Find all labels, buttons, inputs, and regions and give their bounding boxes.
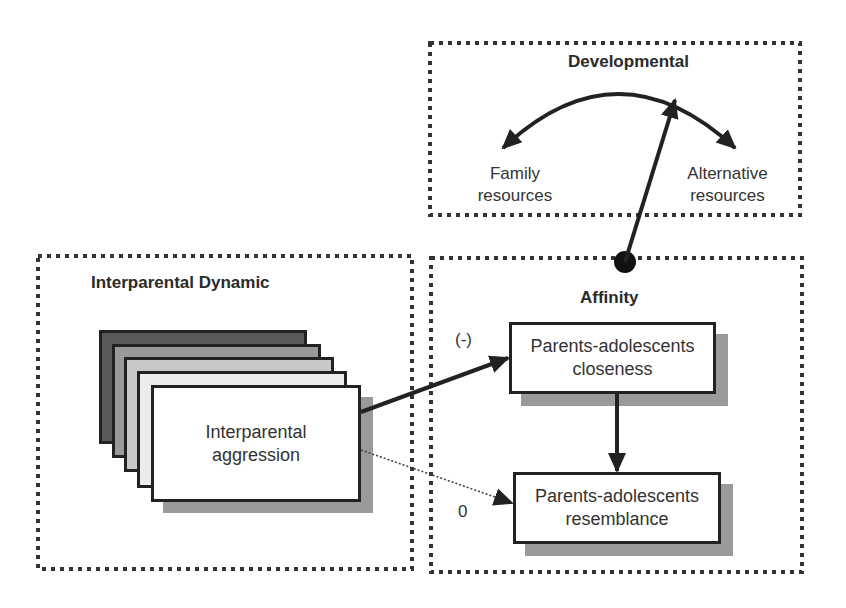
closeness-node: Parents-adolescents closeness: [509, 322, 716, 394]
resemblance-node: Parents-adolescents resemblance: [513, 472, 721, 544]
negative-edge-label: (-): [455, 330, 472, 350]
developmental-title: Developmental: [568, 52, 689, 72]
family-resources-label: Family resources: [455, 163, 575, 207]
interparental-aggression-node: Interparental aggression: [151, 385, 361, 502]
zero-edge-label: 0: [458, 502, 467, 522]
alternative-resources-label: Alternative resources: [665, 163, 790, 207]
interparental-dynamic-title: Interparental Dynamic: [91, 273, 270, 293]
affinity-title: Affinity: [580, 288, 639, 308]
